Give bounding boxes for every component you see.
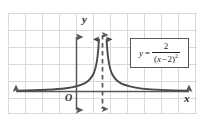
equation-expression: y = 2 (x − 2)2 — [139, 42, 180, 64]
denominator-exponent: 2 — [175, 53, 178, 59]
graph-figure: y x O y = 2 (x − 2)2 — [0, 0, 206, 127]
y-axis-label: y — [82, 14, 87, 25]
equation-callout-box: y = 2 (x − 2)2 — [130, 38, 189, 68]
equation-numerator: 2 — [161, 42, 172, 51]
origin-label: O — [65, 93, 72, 103]
equation-denominator: (x − 2)2 — [152, 53, 180, 64]
equation-lhs: y — [139, 48, 143, 58]
denominator-variable: x — [157, 54, 161, 64]
equation-fraction: 2 (x − 2)2 — [152, 42, 180, 64]
curve-left-branch — [18, 40, 99, 91]
x-axis-label: x — [184, 93, 190, 104]
equation-equals-sign: = — [145, 48, 150, 58]
denominator-minus-sign: − — [162, 54, 167, 64]
